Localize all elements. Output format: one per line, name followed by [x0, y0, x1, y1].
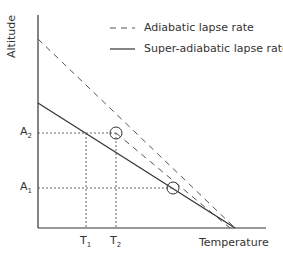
x-axis-label: Temperature — [199, 236, 269, 249]
a1-base: A — [20, 180, 28, 193]
y-axis-label: Altitude — [5, 15, 18, 58]
lapse-rate-diagram: Altitude Adiabatic lapse rate Super-adia… — [0, 0, 283, 260]
diagram-canvas — [0, 0, 283, 260]
t2-sub: 2 — [117, 241, 121, 249]
a1-sub: 1 — [28, 187, 32, 195]
a2-sub: 2 — [28, 132, 32, 140]
t2-base: T — [110, 234, 117, 247]
legend-adiabatic-label: Adiabatic lapse rate — [144, 21, 254, 34]
a2-base: A — [20, 125, 28, 138]
t1-marker-label: T1 — [80, 234, 91, 249]
t2-marker-label: T2 — [110, 234, 121, 249]
t1-sub: 1 — [87, 241, 91, 249]
a2-marker-label: A2 — [20, 125, 32, 140]
a1-marker-label: A1 — [20, 180, 32, 195]
adiabatic-line-upper — [38, 39, 235, 228]
t1-base: T — [80, 234, 87, 247]
super-adiabatic-line — [38, 103, 235, 228]
legend-super-adiabatic-label: Super-adiabatic lapse rate — [144, 42, 283, 55]
